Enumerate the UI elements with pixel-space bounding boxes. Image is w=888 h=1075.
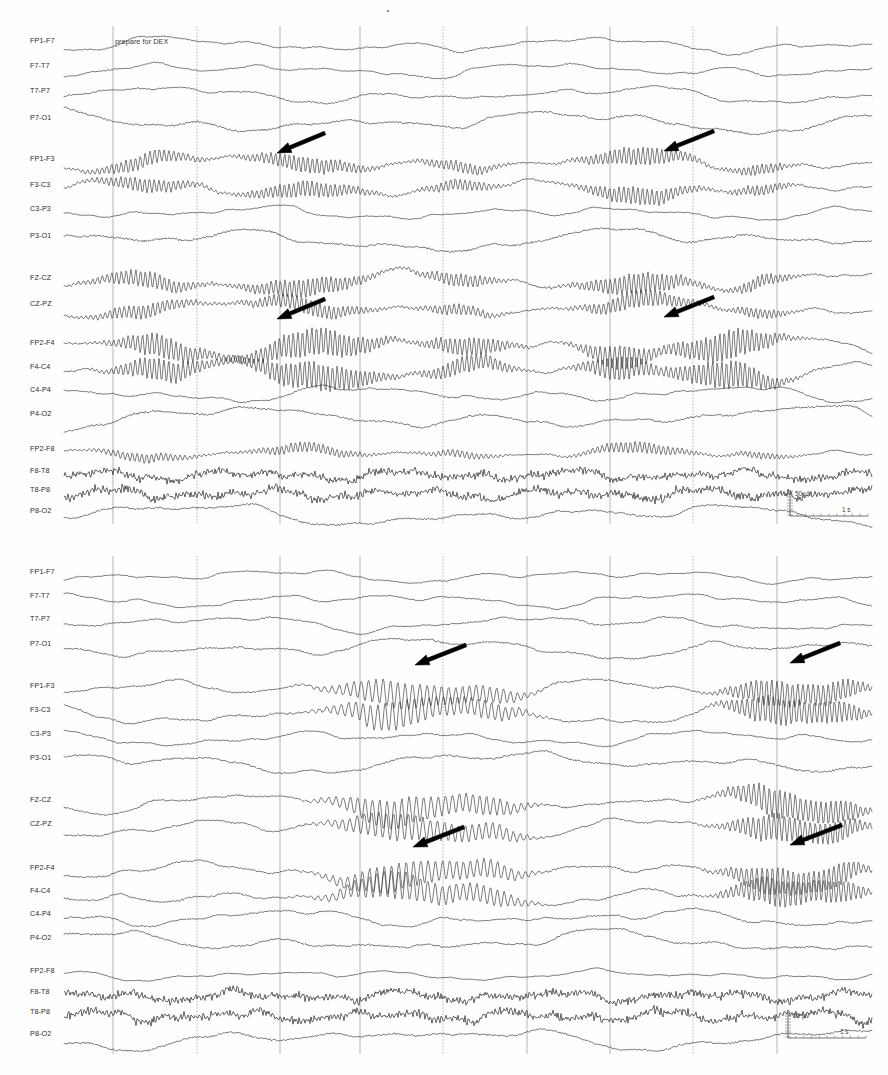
channel-label-c4-p4: C4-P4 [30, 385, 51, 394]
scale-bar-upper: 50 µV1 s [787, 490, 868, 516]
eeg-page: FP1-F7F7-T7T7-P7P7-O1FP1-F3F3-C3C3-P3P3-… [0, 0, 888, 1075]
channel-label-f4-c4: F4-C4 [30, 886, 50, 895]
channel-label-t7-p7: T7-P7 [30, 86, 50, 95]
channel-label-f7-t7: F7-T7 [30, 591, 50, 600]
channel-label-fp1-f7: FP1-F7 [30, 36, 55, 45]
eeg-trace [64, 812, 872, 844]
eeg-trace [64, 85, 872, 104]
eeg-trace [64, 227, 872, 252]
eeg-panel-lower: FP1-F7F7-T7T7-P7P7-O1FP1-F3F3-C3C3-P3P3-… [0, 535, 888, 1075]
speck-artifact [387, 10, 389, 12]
channel-label-p4-o2: P4-O2 [30, 933, 51, 942]
channel-label-t7-p7: T7-P7 [30, 614, 50, 623]
arrow-bottom-left-upper-icon [415, 643, 467, 665]
channel-label-fz-cz: FZ-CZ [30, 795, 52, 804]
eeg-trace [64, 858, 872, 896]
channel-label-t8-p8: T8-P8 [30, 1007, 50, 1016]
channel-label-fp2-f4: FP2-F4 [30, 338, 55, 347]
eeg-plot-upper: FP1-F7F7-T7T7-P7P7-O1FP1-F3F3-C3C3-P3P3-… [0, 0, 888, 535]
scale-time-label: 1 s [840, 1028, 849, 1035]
waveform-traces-lower [64, 570, 872, 1052]
channel-label-p3-o1: P3-O1 [30, 753, 51, 762]
eeg-trace [64, 107, 872, 135]
channel-label-f3-c3: F3-C3 [30, 705, 50, 714]
eeg-trace [64, 441, 872, 463]
channel-label-f7-t7: F7-T7 [30, 61, 50, 70]
waveform-traces-upper [64, 36, 872, 528]
eeg-trace [64, 679, 872, 710]
scale-amplitude-label: 50 µV [795, 490, 813, 498]
channel-label-p4-o2: P4-O2 [30, 409, 51, 418]
scale-time-label: 1 s [842, 506, 851, 513]
channel-label-p8-o2: P8-O2 [30, 1029, 51, 1038]
channel-label-c4-p4: C4-P4 [30, 909, 51, 918]
eeg-trace [64, 593, 872, 610]
eeg-trace [64, 177, 872, 206]
channel-labels-lower: FP1-F7F7-T7T7-P7P7-O1FP1-F3F3-C3C3-P3P3-… [30, 567, 55, 1038]
eeg-trace [64, 147, 872, 175]
eeg-trace [64, 353, 872, 392]
channel-label-t8-p8: T8-P8 [30, 485, 50, 494]
eeg-trace [64, 750, 872, 773]
eeg-trace [64, 616, 872, 635]
eeg-trace [64, 783, 872, 829]
eeg-trace [64, 1005, 872, 1028]
arrow-top-right-upper-icon [664, 129, 715, 151]
channel-label-p3-o1: P3-O1 [30, 231, 51, 240]
scale-amplitude-label: 50 µV [793, 1012, 811, 1020]
eeg-trace [64, 1028, 872, 1051]
eeg-trace [64, 638, 872, 659]
eeg-trace [64, 928, 872, 950]
channel-label-f8-t8: F8-T8 [30, 987, 50, 996]
arrow-top-left-upper-icon [277, 131, 326, 153]
channel-label-cz-pz: CZ-PZ [30, 819, 52, 828]
marker-arrows-lower [413, 641, 843, 847]
event-annotation-label: prepare for DEX [115, 37, 168, 46]
channel-label-fp2-f4: FP2-F4 [30, 863, 55, 872]
channel-label-cz-pz: CZ-PZ [30, 299, 52, 308]
channel-label-c3-p3: C3-P3 [30, 204, 51, 213]
channel-label-f3-c3: F3-C3 [30, 180, 50, 189]
channel-label-p7-o1: P7-O1 [30, 113, 51, 122]
channel-label-fp2-f8: FP2-F8 [30, 444, 55, 453]
channel-label-fp1-f3: FP1-F3 [30, 154, 55, 163]
arrow-bottom-right-lower-icon [790, 823, 843, 845]
eeg-trace [64, 405, 872, 432]
gridlines-upper [113, 26, 777, 524]
eeg-trace [64, 908, 872, 927]
channel-labels-upper: FP1-F7F7-T7T7-P7P7-O1FP1-F3F3-C3C3-P3P3-… [30, 36, 55, 515]
eeg-trace [64, 503, 872, 527]
channel-label-c3-p3: C3-P3 [30, 729, 51, 738]
channel-label-fp1-f7: FP1-F7 [30, 567, 55, 576]
eeg-trace [64, 205, 872, 220]
eeg-trace [64, 968, 872, 982]
eeg-trace [64, 266, 872, 297]
channel-label-fp2-f8: FP2-F8 [30, 966, 55, 975]
eeg-trace [64, 385, 872, 404]
eeg-panel-upper: FP1-F7F7-T7T7-P7P7-O1FP1-F3F3-C3C3-P3P3-… [0, 0, 888, 535]
eeg-trace [64, 290, 872, 321]
channel-label-fz-cz: FZ-CZ [30, 273, 52, 282]
channel-label-f8-t8: F8-T8 [30, 466, 50, 475]
gridlines-lower [113, 556, 777, 1054]
channel-label-p8-o2: P8-O2 [30, 506, 51, 515]
eeg-plot-lower: FP1-F7F7-T7T7-P7P7-O1FP1-F3F3-C3C3-P3P3-… [0, 535, 888, 1075]
channel-label-f4-c4: F4-C4 [30, 362, 50, 371]
eeg-trace [64, 730, 872, 747]
eeg-trace [64, 467, 872, 485]
annotations-upper: prepare for DEX [115, 37, 168, 46]
eeg-trace [64, 986, 872, 1006]
eeg-trace [64, 36, 872, 56]
eeg-trace [64, 484, 872, 504]
channel-label-p7-o1: P7-O1 [30, 639, 51, 648]
eeg-trace [64, 62, 872, 79]
eeg-trace [64, 570, 872, 585]
eeg-trace [64, 695, 872, 730]
channel-label-fp1-f3: FP1-F3 [30, 681, 55, 690]
